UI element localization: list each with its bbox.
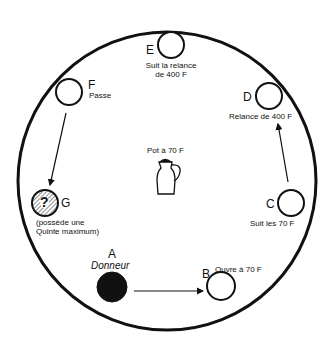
player-e-label-line2: de 400 F <box>140 70 202 79</box>
player-c-label: Suit les 70 F <box>250 219 294 228</box>
seat-d <box>256 83 282 109</box>
player-b-label: Ouvre à 70 F <box>215 265 262 274</box>
player-c-letter: C <box>266 198 275 210</box>
arrow-c-to-d <box>278 124 288 182</box>
player-f-letter: F <box>88 79 95 91</box>
seat-a-dealer <box>97 272 127 302</box>
player-b-letter: B <box>202 268 210 280</box>
player-g-letter: G <box>61 197 70 209</box>
player-f-label: Passe <box>89 91 111 100</box>
player-a-label: Donneur <box>91 261 129 270</box>
seat-c <box>278 190 304 216</box>
player-g-label: (possède une Quinte maximum) <box>36 218 99 236</box>
arrow-f-to-g <box>50 113 66 185</box>
seat-b <box>207 272 235 300</box>
question-mark-icon: ? <box>40 196 49 208</box>
seat-e <box>158 32 184 58</box>
player-g-label-line2: Quinte maximum) <box>36 227 99 236</box>
poker-table-diagram <box>0 0 335 341</box>
player-d-label: Relance de 400 F <box>229 112 292 121</box>
player-e-label-line1: Suit la relance <box>140 61 202 70</box>
pot-label: Pot à 70 F <box>147 146 184 155</box>
player-d-letter: D <box>243 91 252 103</box>
player-e-label: Suit la relance de 400 F <box>140 61 202 79</box>
pot-jug-icon <box>157 160 180 195</box>
player-e-letter: E <box>146 44 154 56</box>
player-a-letter: A <box>108 248 116 260</box>
seat-f <box>56 79 82 105</box>
player-g-label-line1: (possède une <box>36 218 99 227</box>
